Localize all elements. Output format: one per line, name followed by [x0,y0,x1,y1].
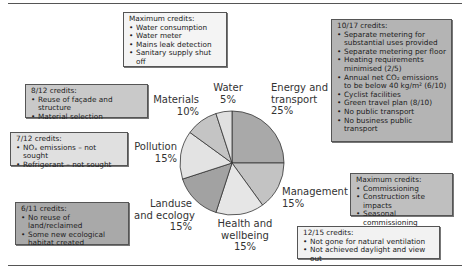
label-water-name: Water [208,82,248,94]
callout-materials-list: Reuse of façade and structureMaterial se… [31,96,143,122]
callout-management-list: CommissioningConstruction site impactsSe… [356,185,448,228]
callout-energy: 10/17 credits: Separate metering for sub… [331,19,452,142]
label-management-value: 15% [282,198,348,210]
callout-health-list: Not gone for natural ventilationNot achi… [303,238,435,264]
label-landuse-line2: and ecology [134,210,192,222]
label-landuse-value: 15% [134,221,192,233]
label-health: Health and wellbeing 15% [210,218,280,253]
label-water: Water 5% [208,82,248,105]
label-pollution-name: Pollution [132,141,177,153]
callout-energy-list: Separate metering for substantial uses p… [337,31,447,134]
callout-water-item: Sanitary supply shut off [129,49,222,66]
label-energy: Energy and transport 25% [271,82,328,117]
label-management-name: Management [282,186,348,198]
label-water-value: 5% [208,94,248,106]
label-landuse: Landuse and ecology 15% [134,198,192,233]
callout-energy-item: Heating requirements minimised (2/5) [337,56,447,73]
callout-water-list: Water consumptionWater meterMains leak d… [129,24,222,67]
label-landuse-line1: Landuse [134,198,192,210]
label-energy-line2: transport [271,94,328,106]
label-energy-line1: Energy and [271,82,328,94]
callout-pollution-item: NOₓ emissions – not sought [16,144,123,161]
callout-energy-item: Separate metering for substantial uses p… [337,31,447,48]
label-materials-name: Materials [147,94,199,106]
label-health-value: 15% [210,241,280,253]
callout-health: 12/15 credits: Not gone for natural vent… [297,226,440,259]
callout-energy-item: Annual net CO₂ emissions to be below 40 … [337,74,447,91]
callout-management: Maximum credits: CommissioningConstructi… [350,173,453,216]
callout-pollution-item: Refrigerant – not sought [16,161,123,170]
label-management: Management 15% [282,186,348,209]
pie-slice-energy-and-transport [232,111,284,163]
label-pollution-value: 15% [132,153,177,165]
label-health-line1: Health and [210,218,280,230]
callout-pollution: 7/12 credits: NOₓ emissions – not sought… [10,132,128,166]
callout-landuse-list: No reuse of land/reclaimedSome new ecolo… [21,214,124,248]
label-energy-value: 25% [271,105,328,117]
callout-management-item: Construction site impacts [356,193,448,210]
callout-landuse-item: No reuse of land/reclaimed [21,214,124,231]
callout-materials-item: Material selection [31,113,143,122]
callout-landuse: 6/11 credits: No reuse of land/reclaimed… [15,202,129,245]
callout-landuse-item: Some new ecological habitat created [21,231,124,248]
callout-materials: 8/12 credits: Reuse of façade and struct… [25,84,148,118]
label-materials: Materials 10% [147,94,199,117]
callout-pollution-list: NOₓ emissions – not soughtRefrigerant – … [16,144,123,170]
callout-water: Maximum credits: Water consumptionWater … [123,12,227,67]
callout-energy-item: No business public transport [337,117,447,134]
callout-materials-item: Reuse of façade and structure [31,96,143,113]
label-pollution: Pollution 15% [132,141,177,164]
label-health-line2: wellbeing [210,230,280,242]
label-materials-value: 10% [147,106,199,118]
callout-health-item: Not achieved daylight and view out [303,246,435,263]
callout-management-item: Seasonal commissioning [356,210,448,227]
